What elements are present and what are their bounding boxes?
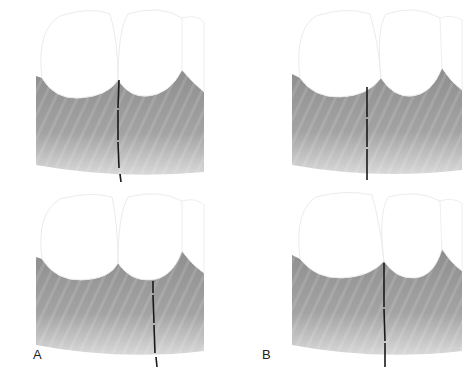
teeth-illustration: [0, 0, 236, 189]
panel-a-top: [0, 0, 236, 189]
teeth-illustration: [236, 0, 472, 189]
teeth-illustration: [236, 189, 472, 378]
panel-b-top: [236, 0, 472, 189]
panel-label-b: B: [262, 347, 271, 362]
panel-label-a: A: [33, 347, 42, 362]
panel-a-bottom: A: [0, 189, 236, 378]
panel-b-bottom: B: [236, 189, 472, 378]
